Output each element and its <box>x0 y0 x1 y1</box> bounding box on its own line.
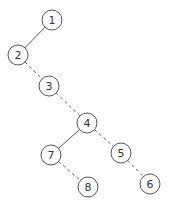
node-label: 3 <box>46 80 53 93</box>
node-label: 8 <box>85 181 92 194</box>
node-label: 2 <box>15 49 22 62</box>
nodes-layer: 12347586 <box>8 10 160 197</box>
edge-1-2 <box>25 27 45 48</box>
node-label: 6 <box>147 178 154 191</box>
edge-4-7 <box>58 130 79 149</box>
node-label: 7 <box>48 149 55 162</box>
tree-diagram: 12347586 <box>0 0 172 206</box>
tree-node-5: 5 <box>111 143 131 163</box>
tree-node-6: 6 <box>140 174 160 194</box>
tree-node-3: 3 <box>39 76 59 96</box>
tree-node-8: 8 <box>78 177 98 197</box>
edge-7-8 <box>59 162 81 181</box>
node-label: 1 <box>49 14 56 27</box>
tree-node-1: 1 <box>42 10 62 30</box>
edge-2-3 <box>25 62 42 79</box>
node-label: 4 <box>84 117 91 130</box>
tree-node-2: 2 <box>8 45 28 65</box>
node-label: 5 <box>118 147 125 160</box>
tree-node-4: 4 <box>77 113 97 133</box>
edge-3-4 <box>56 93 80 116</box>
edge-4-5 <box>94 130 113 147</box>
tree-node-7: 7 <box>41 145 61 165</box>
edge-5-6 <box>128 160 143 176</box>
